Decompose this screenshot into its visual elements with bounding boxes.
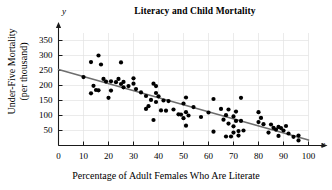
data-point [186,113,190,117]
data-point [256,120,260,124]
x-tick-label: 100 [297,152,321,161]
data-point [184,124,188,128]
data-point [234,119,238,123]
x-axis-title: Percentage of Adult Females Who Are Lite… [0,170,332,181]
data-point [239,119,243,123]
data-point [229,134,233,138]
data-point [259,116,263,120]
y-tick-label: 50 [25,126,53,135]
chart-figure: Literacy and Child Mortality y x 5010015… [0,0,332,190]
data-point [231,131,235,135]
data-point [296,138,300,142]
data-point [139,90,143,94]
data-point [154,84,158,88]
data-point [156,94,160,98]
data-point [224,134,228,138]
data-point [109,89,113,93]
y-axis-title-line2: (per thousand) [17,13,29,131]
data-point [236,129,240,133]
data-point [286,131,290,135]
data-point [91,84,95,88]
y-tick-label: 150 [25,96,53,105]
data-point [179,113,183,117]
data-point [211,97,215,101]
x-tick-label: 20 [97,152,121,161]
y-tick-label: 100 [25,111,53,120]
data-point [184,95,188,99]
data-point [131,76,135,80]
data-point [96,88,100,92]
data-point [239,96,243,100]
x-tick-label: 30 [122,152,146,161]
x-tick-label: 10 [72,152,96,161]
data-point [231,124,235,128]
x-tick-label: 60 [197,152,221,161]
data-point [236,134,240,138]
x-tick-label: 50 [172,152,196,161]
data-point [164,109,168,113]
data-point [89,91,93,95]
data-point [276,134,280,138]
data-point [109,79,113,83]
data-point [99,62,103,66]
data-point [181,101,185,105]
data-point [159,108,163,112]
x-tick-label: 80 [247,152,271,161]
data-point [231,114,235,118]
data-point [104,80,108,84]
data-point [144,94,148,98]
data-point [226,107,230,111]
data-point [256,110,260,114]
x-tick-label: 40 [147,152,171,161]
y-axis-title-line1: Under-Five Mortality [6,13,18,131]
data-point [171,107,175,111]
data-point [219,107,223,111]
data-point [161,98,165,102]
data-point [149,98,153,102]
data-point [224,113,228,117]
data-point [89,60,93,64]
data-point [261,122,265,126]
data-point [206,110,210,114]
data-point [126,84,130,88]
x-tick-label: 90 [272,152,296,161]
data-point [234,110,238,114]
data-point [296,134,300,138]
data-point [241,128,245,132]
data-point [266,131,270,135]
data-point [151,118,155,122]
data-point [221,118,225,122]
data-point [181,116,185,120]
data-point [134,87,138,91]
data-point [81,75,85,79]
data-point [121,80,125,84]
data-point [166,99,170,103]
data-point [146,104,150,108]
y-tick-label: 200 [25,81,53,90]
axis-lines [56,22,328,148]
data-point [116,77,120,81]
data-point [154,100,158,104]
data-point [106,96,110,100]
data-point [211,130,215,134]
data-point [119,60,123,64]
x-tick-label: 0 [47,152,71,161]
data-point [281,128,285,132]
data-point [121,85,125,89]
y-tick-label: 350 [25,36,53,45]
data-point [191,105,195,109]
data-point [284,124,288,128]
y-tick-label: 250 [25,66,53,75]
data-point [131,82,135,86]
y-tick-label: 300 [25,51,53,60]
y-axis-title: Under-Five Mortality (per thousand) [6,13,29,131]
data-point [96,53,100,57]
x-tick-label: 70 [222,152,246,161]
data-point [226,122,230,126]
data-point [291,135,295,139]
data-point [199,115,203,119]
